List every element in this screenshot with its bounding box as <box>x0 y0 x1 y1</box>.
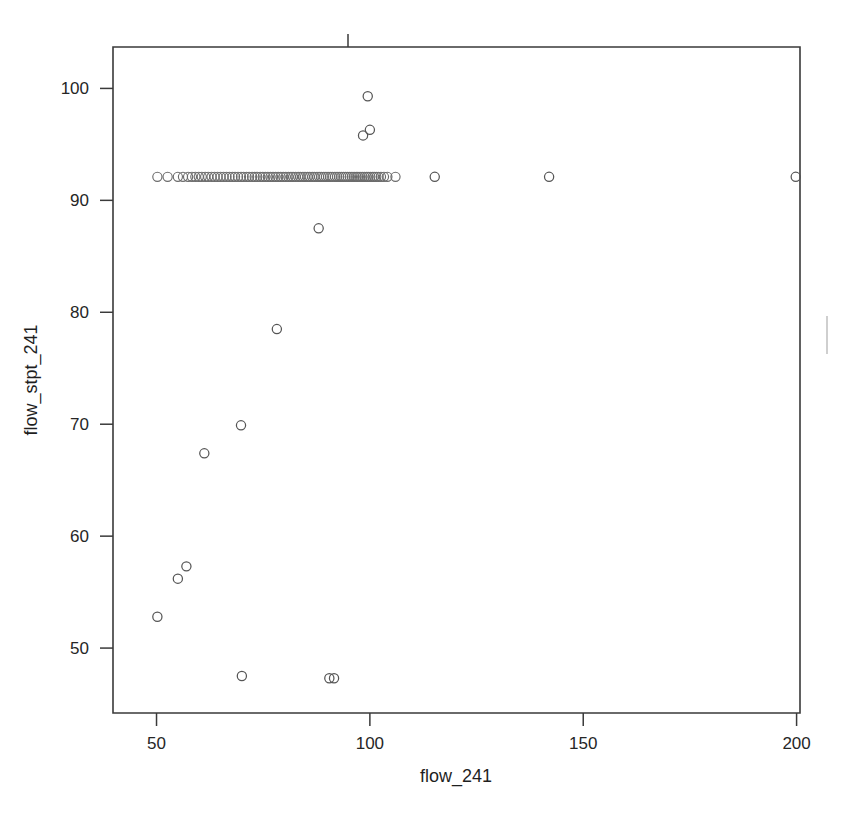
data-point <box>365 125 374 134</box>
data-point <box>173 574 182 583</box>
plot-canvas: 50100150200 5060708090100 flow_241 flow_… <box>0 0 842 817</box>
data-point <box>272 324 281 333</box>
x-tick-label: 50 <box>147 734 166 753</box>
y-tick-label: 90 <box>70 191 89 210</box>
x-axis-ticks: 50100150200 <box>147 713 811 753</box>
data-point <box>153 612 162 621</box>
x-axis-title: flow_241 <box>420 766 492 787</box>
data-point <box>200 449 209 458</box>
y-tick-label: 80 <box>70 303 89 322</box>
x-tick-label: 150 <box>569 734 597 753</box>
data-point <box>791 172 800 181</box>
data-point <box>545 172 554 181</box>
data-point <box>236 421 245 430</box>
y-tick-label: 60 <box>70 527 89 546</box>
plot-frame <box>113 47 800 713</box>
data-point <box>153 172 162 181</box>
data-point <box>363 92 372 101</box>
x-tick-label: 200 <box>782 734 810 753</box>
y-axis-ticks: 5060708090100 <box>61 79 113 658</box>
y-tick-label: 70 <box>70 415 89 434</box>
data-point <box>237 671 246 680</box>
x-tick-label: 100 <box>356 734 384 753</box>
y-axis-title: flow_stpt_241 <box>21 324 42 435</box>
data-point-group <box>153 92 801 683</box>
data-point <box>430 172 439 181</box>
y-tick-label: 100 <box>61 79 89 98</box>
scatter-plot-figure: 50100150200 5060708090100 flow_241 flow_… <box>0 0 842 817</box>
y-tick-label: 50 <box>70 639 89 658</box>
data-point <box>163 172 172 181</box>
data-point <box>314 224 323 233</box>
data-point <box>182 562 191 571</box>
scan-speck <box>826 316 828 354</box>
